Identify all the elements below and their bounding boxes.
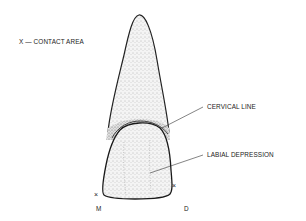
cervical-line-leader	[162, 107, 203, 128]
tooth-root	[108, 15, 169, 132]
mesial-label: M	[96, 205, 101, 212]
labial-depression-label: LABIAL DEPRESSION	[207, 151, 274, 158]
contact-mark-mesial: ×	[94, 191, 98, 198]
distal-label: D	[184, 205, 189, 212]
contact-mark-distal: ×	[172, 182, 176, 189]
contact-area-legend: X — CONTACT AREA	[19, 38, 84, 45]
tooth-diagram	[0, 0, 306, 221]
cervical-line-label: CERVICAL LINE	[207, 103, 256, 110]
